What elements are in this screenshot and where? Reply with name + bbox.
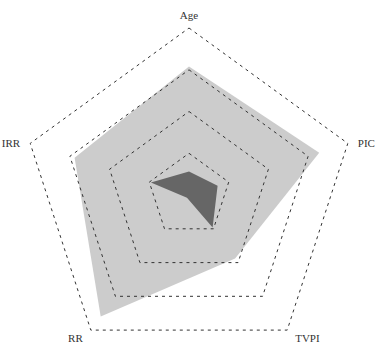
axis-label-pic: PIC xyxy=(358,137,375,149)
axis-label-tvpi: TVPI xyxy=(295,332,320,344)
axis-label-age: Age xyxy=(180,9,198,21)
axis-label-rr: RR xyxy=(68,332,83,344)
radar-chart: AgePICTVPIRRIRR xyxy=(0,0,378,350)
axis-label-irr: IRR xyxy=(2,137,21,149)
series-layer xyxy=(75,66,320,316)
